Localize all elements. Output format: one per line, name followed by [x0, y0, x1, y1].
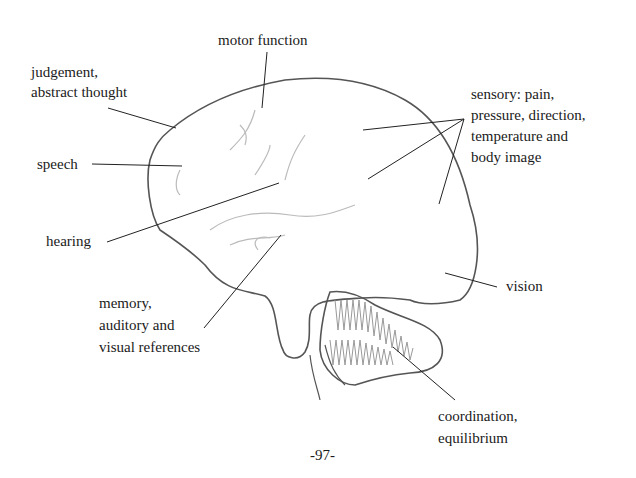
brainstem [310, 345, 345, 400]
label-memory-line-1: memory, [99, 292, 200, 314]
label-memory: memory, auditory and visual references [99, 292, 200, 358]
gyri-lines [176, 110, 355, 250]
label-sensory-line-3: temperature and [471, 126, 586, 147]
cerebellum-hatching [330, 300, 413, 365]
label-coordination-line-2: equilibrium [438, 427, 518, 449]
label-memory-line-3: visual references [99, 336, 200, 358]
cerebellum [320, 292, 442, 385]
label-speech: speech [37, 154, 78, 174]
page-number: -97- [310, 445, 335, 465]
label-memory-line-2: auditory and [99, 314, 200, 336]
label-sensory-line-4: body image [471, 147, 586, 168]
label-coordination: coordination, equilibrium [438, 405, 518, 449]
label-sensory-line-2: pressure, direction, [471, 105, 586, 126]
label-sensory-line-1: sensory: pain, [471, 84, 586, 105]
label-coordination-line-1: coordination, [438, 405, 518, 427]
label-hearing: hearing [46, 231, 91, 251]
label-judgement-line-2: abstract thought [31, 82, 127, 102]
label-motor-function: motor function [218, 30, 308, 50]
label-sensory: sensory: pain, pressure, direction, temp… [471, 84, 586, 168]
label-judgement: judgement, abstract thought [31, 62, 127, 102]
label-vision: vision [506, 276, 543, 296]
label-judgement-line-1: judgement, [31, 62, 127, 82]
